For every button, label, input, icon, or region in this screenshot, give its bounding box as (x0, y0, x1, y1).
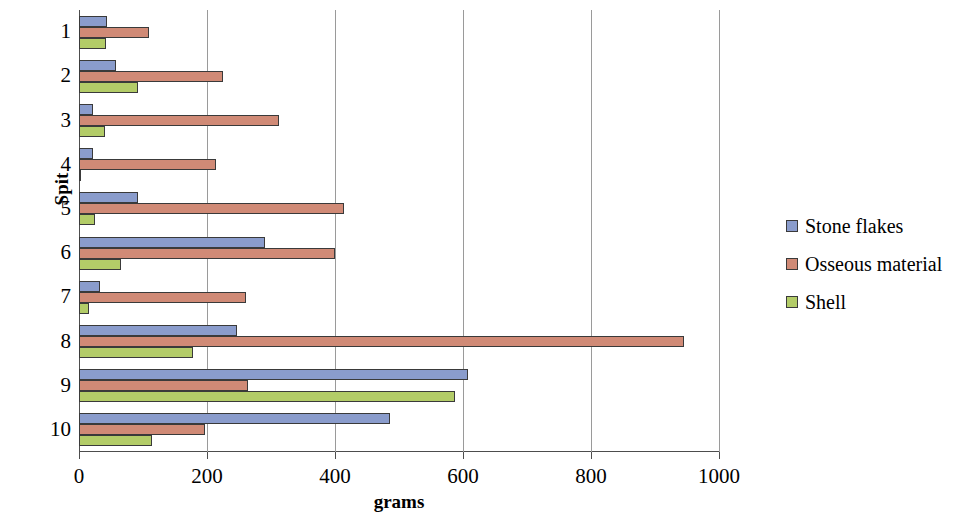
x-tick-mark (207, 452, 208, 459)
bar (79, 237, 265, 248)
bar-group (79, 98, 719, 142)
bar (79, 424, 205, 435)
bar (79, 259, 121, 270)
bar (79, 380, 248, 391)
bar (79, 248, 335, 259)
bar-group (79, 187, 719, 231)
y-tick-label: 10 (11, 419, 71, 440)
y-tick-label: 7 (11, 286, 71, 307)
bar (79, 413, 390, 424)
legend-item: Shell (786, 283, 958, 321)
bar (79, 214, 95, 225)
x-tick-label: 1000 (679, 465, 759, 487)
legend-swatch-icon (786, 296, 798, 308)
x-tick-mark (719, 452, 720, 459)
bar (79, 104, 93, 115)
bar-group (79, 143, 719, 187)
legend-item: Osseous material (786, 245, 958, 283)
x-tick-label: 400 (295, 465, 375, 487)
x-tick-label: 800 (551, 465, 631, 487)
bar (79, 391, 455, 402)
bar-group (79, 10, 719, 54)
bar (79, 115, 279, 126)
legend-swatch-icon (786, 220, 798, 232)
bar (79, 292, 246, 303)
x-tick-mark (591, 452, 592, 459)
y-tick-label: 6 (11, 242, 71, 263)
legend-item: Stone flakes (786, 207, 958, 245)
x-tick-label: 600 (423, 465, 503, 487)
y-tick-label: 3 (11, 110, 71, 131)
legend-label: Stone flakes (805, 216, 903, 236)
bar (79, 126, 105, 137)
bar (79, 369, 468, 380)
y-tick-label: 5 (11, 198, 71, 219)
x-tick-label: 0 (39, 465, 119, 487)
y-tick-label: 1 (11, 21, 71, 42)
bar (79, 170, 81, 181)
bar (79, 159, 216, 170)
legend-label: Osseous material (805, 254, 942, 274)
bar (79, 203, 344, 214)
bar (79, 325, 237, 336)
bar (79, 281, 100, 292)
bar-group (79, 408, 719, 452)
bar (79, 303, 89, 314)
bar-group (79, 319, 719, 363)
bar (79, 148, 93, 159)
bar-group (79, 275, 719, 319)
y-tick-label: 8 (11, 331, 71, 352)
legend-label: Shell (805, 292, 846, 312)
bar (79, 192, 138, 203)
x-tick-mark (335, 452, 336, 459)
y-tick-label: 4 (11, 154, 71, 175)
y-tick-label: 9 (11, 375, 71, 396)
bar (79, 27, 149, 38)
bar (79, 336, 684, 347)
x-tick-mark (463, 452, 464, 459)
bar (79, 435, 152, 446)
bar (79, 71, 223, 82)
bar-group (79, 54, 719, 98)
chart-legend: Stone flakesOsseous materialShell (786, 207, 958, 321)
x-axis-title: grams (79, 491, 719, 513)
y-tick-label: 2 (11, 65, 71, 86)
bar-chart: Spit 12345678910 02004006008001000 grams… (0, 0, 959, 517)
bar (79, 82, 138, 93)
bar (79, 38, 106, 49)
bar (79, 16, 107, 27)
plot-area: 02004006008001000 (79, 10, 719, 452)
bar (79, 60, 116, 71)
x-tick-mark (79, 452, 80, 459)
bar (79, 347, 193, 358)
y-axis-tick-labels: 12345678910 (9, 0, 71, 452)
legend-swatch-icon (786, 258, 798, 270)
bar-group (79, 231, 719, 275)
bar-group (79, 364, 719, 408)
gridline (719, 10, 720, 452)
x-tick-label: 200 (167, 465, 247, 487)
